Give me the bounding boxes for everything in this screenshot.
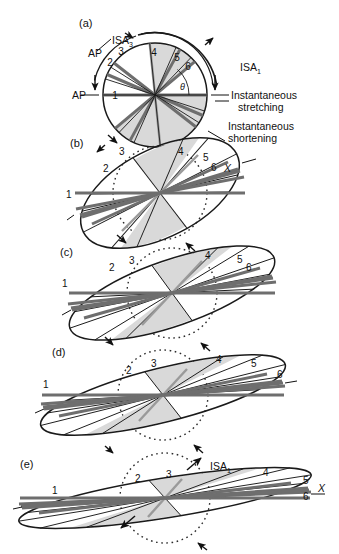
panel-e-x-axis-label: X [317, 482, 326, 494]
panel-c-line-number-5: 5 [237, 254, 243, 265]
panel-e-line-number-5: 5 [303, 475, 309, 486]
panel-a-line-number-4: 4 [151, 47, 157, 58]
panel-a-label: (a) [79, 17, 92, 29]
panel-d-line-number-2: 2 [126, 365, 132, 376]
panel-b-label: (b) [70, 137, 83, 149]
panel-b-line-number-3: 3 [119, 146, 125, 157]
panel-e-label: (e) [20, 458, 33, 470]
instantaneous-stretching-line2: stretching [238, 101, 284, 113]
panel-e-line-number-2: 2 [135, 473, 141, 484]
panel-e-line-number-4: 4 [263, 467, 269, 478]
panel-c-line-number-3: 3 [129, 255, 135, 266]
panel-b-line-number-2: 2 [103, 163, 109, 174]
panel-c-label: (c) [60, 246, 73, 258]
panel-d-line-number-3: 3 [151, 358, 157, 369]
ap-upper-label: AP [88, 47, 102, 59]
figure-strain-ellipse-progression: (a) [0, 0, 339, 554]
panel-a-line-number-3: 3 [118, 46, 124, 57]
panel-b-line-number-6: 6 [211, 162, 217, 173]
theta-label: θ [180, 82, 185, 92]
panel-a-line-number-2: 2 [107, 57, 113, 68]
panel-d-line-number-1: 1 [43, 379, 49, 390]
panel-c-line-number-4: 4 [205, 250, 211, 261]
instantaneous-shortening-line2: shortening [228, 132, 277, 144]
panel-e-line-number-3: 3 [166, 469, 172, 480]
panel-d-line-number-5: 5 [251, 358, 257, 369]
panel-e-line-number-6: 6 [303, 491, 309, 502]
panel-a-line-number-6: 6 [185, 61, 191, 72]
panel-b-x-axis-label: X [223, 162, 232, 174]
instantaneous-shortening-line1: Instantaneous [228, 120, 294, 132]
panel-c-line-number-2: 2 [109, 262, 115, 273]
panel-c-line-number-6: 6 [246, 262, 252, 273]
panel-b-line-number-1: 1 [66, 189, 72, 200]
panel-a-line-number-5: 5 [174, 52, 180, 63]
instantaneous-stretching-line1: Instantaneous [231, 89, 297, 101]
panel-c-line-number-1: 1 [62, 278, 68, 289]
panel-b-line-number-5: 5 [203, 152, 209, 163]
panel-b-line-number-4: 4 [178, 146, 184, 157]
panel-d-label: (d) [52, 346, 65, 358]
panel-a-line-number-1: 1 [112, 90, 118, 101]
panel-d-line-number-4: 4 [216, 354, 222, 365]
ap-lower-label: AP [72, 89, 86, 101]
panel-e-line-number-1: 1 [52, 485, 58, 496]
panel-d-line-number-6: 6 [277, 369, 283, 380]
